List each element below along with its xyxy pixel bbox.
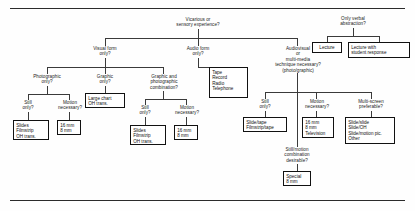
still-only-3-question: Still only?: [246, 99, 284, 110]
node-slides-filmstrip-oh-trans-2[interactable]: Slides Filmstrip OH trans.: [130, 125, 166, 145]
connector-to-graphic-only: [105, 67, 106, 74]
connector-to-graphic-photographic: [163, 67, 164, 74]
connector-to-photographic-only: [47, 67, 48, 74]
connector-to-audio-form: [198, 38, 199, 46]
top-rule: [10, 8, 405, 9]
connector-visual-stem: [105, 58, 106, 67]
audio-form-question: Audio form only?: [171, 46, 225, 57]
graphic-only-question: Graphic only?: [82, 74, 128, 85]
connector-verbal-stem: [353, 28, 354, 36]
still-only-1-question: Still only?: [8, 100, 48, 111]
connector-graphic-photographic-stem: [163, 91, 164, 99]
connector-root-stem: [198, 29, 199, 38]
connector-graphic-only-stem: [105, 86, 106, 93]
node-large-chart-oh-trans[interactable]: Large chart OH trans.: [85, 93, 125, 108]
connector-audiovisual-stem: [297, 73, 298, 92]
still-motion-combination-question: Still/motion combination desirable?: [263, 147, 331, 163]
connector-photographic-stem: [47, 86, 48, 94]
node-tape-record-radio-telephone[interactable]: Tape Record Radio Telephone: [209, 67, 248, 98]
motion-necessary-3-question: Motion necessary?: [296, 99, 338, 110]
node-slide-tape-filmstrip-tape[interactable]: Slide/tape Filmstrip/tape: [243, 117, 287, 132]
connector-to-motion-necessary-3: [316, 92, 317, 99]
node-slides-filmstrip-oh-trans-1[interactable]: Slides Filmstrip OH trans.: [13, 120, 49, 140]
connector-verbal-bus: [327, 36, 379, 37]
connector-audio-form-elbow: [198, 67, 209, 68]
audiovisual-question: Audiovisual or multi-media technique nec…: [255, 46, 341, 73]
bottom-rule: [10, 200, 405, 201]
connector-to-visual-form: [105, 38, 106, 46]
flowchart-canvas: Vicarious or sensory experience? Only ve…: [0, 0, 415, 211]
connector-to-still-only-3: [265, 92, 266, 99]
node-16mm-8mm-1[interactable]: 16 mm 8 mm: [57, 120, 81, 135]
root-question: Vicarious or sensory experience?: [151, 17, 245, 28]
connector-motion-necessary-1-stem: [69, 112, 70, 120]
graphic-photographic-question: Graphic and photographic combination?: [135, 74, 193, 90]
node-special-8mm[interactable]: Special 8 mm: [283, 171, 311, 186]
node-16mm-8mm-2[interactable]: 16 mm 8 mm: [174, 125, 198, 140]
photographic-only-question: Photographic only?: [15, 74, 79, 85]
connector-to-multi-screen: [371, 92, 372, 99]
visual-form-question: Visual form only?: [72, 46, 138, 57]
verbal-question: Only verbal abstraction?: [320, 16, 386, 27]
connector-photographic-bus: [28, 94, 69, 95]
still-only-2-question: Still only?: [126, 105, 164, 116]
connector-to-audiovisual: [297, 38, 298, 46]
connector-still-only-2-stem: [145, 117, 146, 125]
multi-screen-question: Multi-screen preferable?: [345, 99, 397, 110]
connector-motion-necessary-2-stem: [186, 117, 187, 125]
node-multi-screen-options[interactable]: Slide/slide Slide/OH Slide/motion pic. O…: [345, 117, 395, 144]
connector-still-motion-stem: [297, 164, 298, 171]
node-16mm-8mm-television[interactable]: 16 mm 8 mm Television: [302, 117, 334, 138]
connector-graphic-photographic-bus: [145, 99, 186, 100]
connector-audiovisual-bus: [265, 92, 371, 93]
connector-still-only-1-stem: [28, 112, 29, 120]
connector-audio-form-drop: [198, 58, 199, 67]
connector-audiovisual-spine: [297, 92, 298, 147]
connector-main-bus: [105, 38, 298, 39]
node-lecture-with-student-response[interactable]: Lecture with student response: [348, 42, 410, 58]
motion-necessary-2-question: Motion necessary?: [166, 105, 208, 116]
